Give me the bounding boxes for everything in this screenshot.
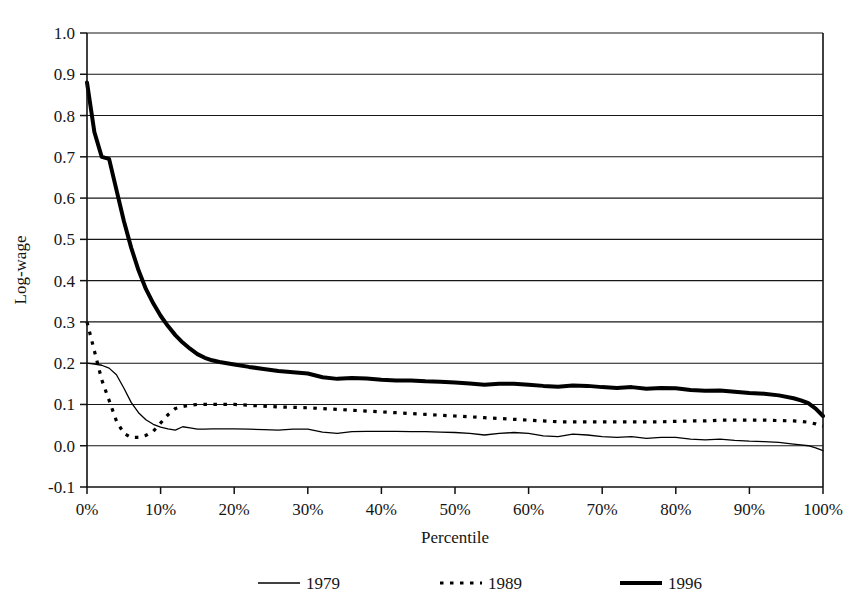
- x-tick-label: 100%: [803, 500, 843, 519]
- y-tick-label: 0.2: [54, 354, 75, 373]
- y-tick-label: 0.7: [54, 148, 76, 167]
- x-tick-label: 0%: [76, 500, 99, 519]
- x-tick-label: 50%: [439, 500, 470, 519]
- x-tick-label: 80%: [660, 500, 691, 519]
- x-tick-label: 40%: [366, 500, 397, 519]
- series-group: [87, 83, 823, 451]
- legend-label-1979: 1979: [306, 574, 340, 593]
- y-axis-ticks: 1.00.90.80.70.60.50.40.30.20.10.0-0.1: [48, 24, 87, 497]
- y-tick-label: 0.3: [54, 313, 75, 332]
- series-line-1996: [87, 83, 823, 416]
- y-tick-label: 1.0: [54, 24, 75, 43]
- x-tick-label: 30%: [292, 500, 323, 519]
- legend-label-1989: 1989: [488, 574, 522, 593]
- y-tick-label: 0.5: [54, 230, 75, 249]
- x-axis-ticks: 0%10%20%30%40%50%60%70%80%90%100%: [76, 487, 843, 519]
- x-axis-title: Percentile: [421, 528, 489, 547]
- figure-container: 1.00.90.80.70.60.50.40.30.20.10.0-0.1 0%…: [0, 0, 855, 608]
- y-tick-label: 0.0: [54, 437, 75, 456]
- x-tick-label: 20%: [219, 500, 250, 519]
- y-tick-label: 0.4: [54, 272, 76, 291]
- series-line-1989: [87, 322, 823, 438]
- y-tick-label: -0.1: [48, 478, 75, 497]
- line-chart: 1.00.90.80.70.60.50.40.30.20.10.0-0.1 0%…: [0, 0, 855, 608]
- legend-label-1996: 1996: [668, 574, 702, 593]
- y-axis-title: Log-wage: [11, 236, 30, 305]
- series-line-1979: [87, 363, 823, 451]
- x-tick-label: 60%: [513, 500, 544, 519]
- x-tick-label: 90%: [734, 500, 765, 519]
- y-tick-label: 0.6: [54, 189, 75, 208]
- y-tick-label: 0.1: [54, 395, 75, 414]
- y-tick-label: 0.8: [54, 107, 75, 126]
- y-tick-label: 0.9: [54, 65, 75, 84]
- x-tick-label: 70%: [587, 500, 618, 519]
- x-tick-label: 10%: [145, 500, 176, 519]
- chart-legend: 197919891996: [258, 574, 702, 593]
